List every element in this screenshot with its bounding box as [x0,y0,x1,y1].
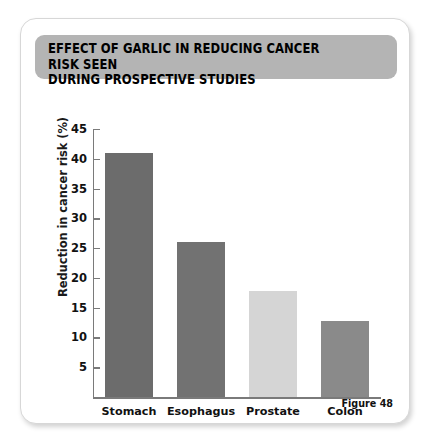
y-tick-label: 20 [57,271,87,285]
y-tick-mark [94,248,100,249]
bar-stomach [105,153,153,397]
y-tick-mark [94,218,100,219]
y-tick-mark [94,337,100,338]
y-tick-label: 35 [57,182,87,196]
chart-plot-area: Reduction in cancer risk (%) 51015202530… [21,85,409,405]
bar-esophagus [177,242,225,397]
figure-caption: Figure 48 [342,398,393,409]
y-tick-label: 45 [57,122,87,136]
y-axis-ticklabels: 51015202530354045 [57,123,87,398]
figure-card: EFFECT OF GARLIC IN REDUCING CANCER RISK… [20,18,410,424]
x-tick-label: Stomach [102,405,157,418]
y-tick-label: 40 [57,152,87,166]
y-tick-mark [94,129,100,130]
y-tick-label: 25 [57,241,87,255]
x-axis-ticklabels: StomachEsophagusProstateColon [93,405,381,425]
y-tick-label: 5 [57,360,87,374]
bar-series [93,129,381,397]
x-tick-label: Esophagus [167,405,235,418]
y-tick-mark [94,308,100,309]
y-tick-label: 10 [57,330,87,344]
y-tick-mark [94,189,100,190]
x-axis-line [93,397,381,399]
chart-title-banner: EFFECT OF GARLIC IN REDUCING CANCER RISK… [35,35,397,79]
chart-title: EFFECT OF GARLIC IN REDUCING CANCER RISK… [48,41,347,88]
bar-colon [321,321,369,397]
bar-prostate [249,291,297,397]
y-tick-mark [94,367,100,368]
y-tick-label: 30 [57,211,87,225]
y-tick-mark [94,159,100,160]
y-tick-label: 15 [57,301,87,315]
y-tick-mark [94,278,100,279]
x-tick-label: Prostate [246,405,300,418]
